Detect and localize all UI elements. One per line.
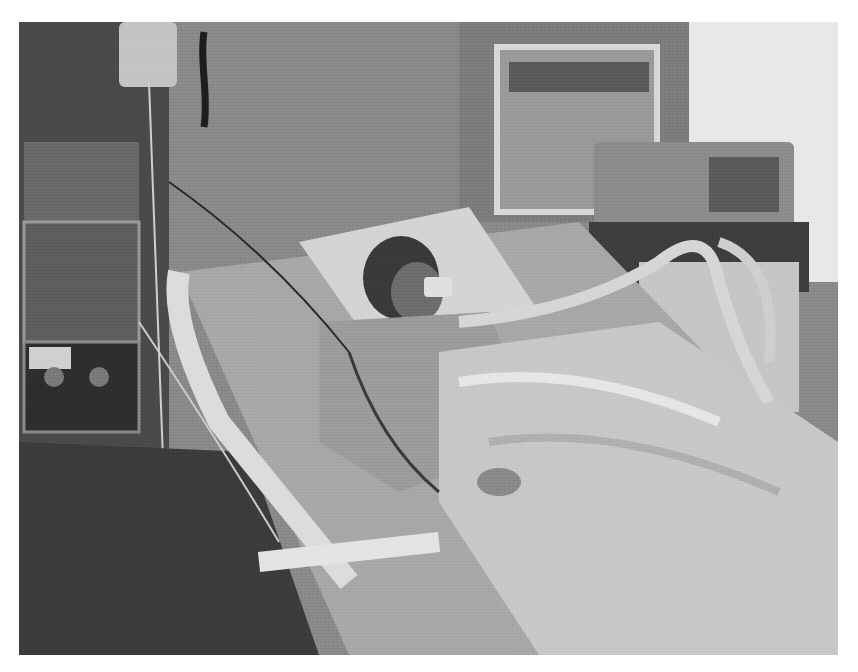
icu-photograph [19, 22, 838, 655]
photo-scene [19, 22, 838, 655]
